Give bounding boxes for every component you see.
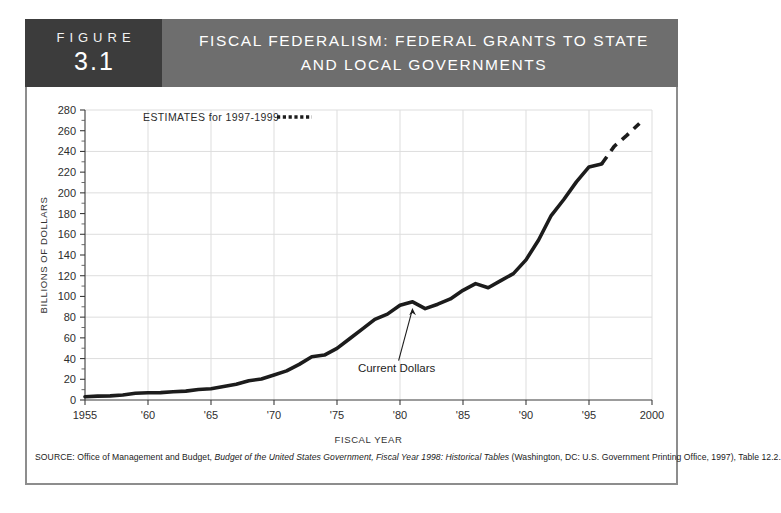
x-axis-tick-label: '90 [519,409,533,421]
annotation-arrowhead-icon [409,309,416,316]
x-axis-tick-label: 1955 [73,409,97,421]
figure-word-label: FIGURE [25,30,162,45]
y-axis-tick-label: 220 [58,166,76,178]
y-axis-title: BILLIONS OF DOLLARS [38,197,49,314]
annotation-label-current-dollars: Current Dollars [358,362,436,374]
y-axis-tick-label: 260 [58,125,76,137]
annotation-leader-line [399,309,413,361]
y-axis-tick-label: 100 [58,290,76,302]
source-text-before: Office of Management and Budget, [75,452,215,462]
figure-title: FISCAL FEDERALISM: FEDERAL GRANTS TO STA… [170,19,678,87]
x-axis-tick-label: 2000 [640,409,664,421]
source-text-after: (Washington, DC: U.S. Government Printin… [509,452,781,462]
chart-plot: 0204060801001201401601802002202402602801… [25,87,678,485]
source-title-italic: Budget of the United States Government, … [214,452,509,462]
x-axis-tick-label: '70 [267,409,281,421]
y-axis-tick-label: 200 [58,187,76,199]
source-prefix: SOURCE: [35,452,75,462]
figure-title-line-1: FISCAL FEDERALISM: FEDERAL GRANTS TO STA… [199,29,649,53]
y-axis-tick-label: 60 [64,332,76,344]
y-axis-tick-label: 160 [58,228,76,240]
y-axis-tick-label: 140 [58,249,76,261]
y-axis-tick-label: 40 [64,353,76,365]
x-axis-tick-label: '75 [330,409,344,421]
series-line-current-dollars [85,164,602,397]
figure-title-line-2: AND LOCAL GOVERNMENTS [301,53,548,77]
y-axis-tick-label: 280 [58,104,76,116]
y-axis-tick-label: 180 [58,208,76,220]
x-axis-tick-label: '65 [204,409,218,421]
y-axis-tick-label: 80 [64,311,76,323]
source-note: SOURCE: Office of Management and Budget,… [35,452,675,462]
x-axis-tick-label: '80 [393,409,407,421]
legend-label-estimates: ESTIMATES for 1997-1999 [143,111,279,123]
series-line-estimates [602,123,640,164]
x-axis-tick-label: '85 [456,409,470,421]
figure-number-value: 3.1 [25,47,162,76]
x-axis-tick-label: '60 [141,409,155,421]
y-axis-tick-label: 240 [58,145,76,157]
x-axis-tick-label: '95 [582,409,596,421]
figure-number-block: FIGURE 3.1 [25,19,162,87]
y-axis-tick-label: 20 [64,373,76,385]
x-axis-title: FISCAL YEAR [335,434,403,445]
y-axis-tick-label: 120 [58,270,76,282]
y-axis-tick-label: 0 [70,394,76,406]
